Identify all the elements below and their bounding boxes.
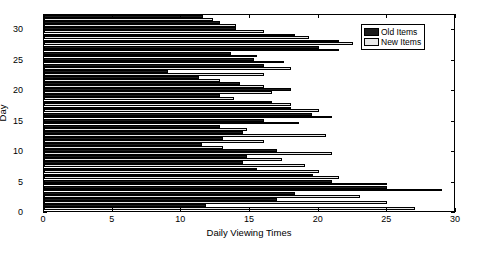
y-tick-20	[451, 90, 455, 91]
x-tick-label-15: 15	[244, 214, 254, 224]
x-tick-label-20: 20	[313, 214, 323, 224]
bar-new-day-32	[44, 18, 213, 21]
bar-new-day-28	[44, 42, 353, 45]
legend-item-old-items: Old Items	[364, 27, 421, 37]
bar-new-day-2	[44, 201, 387, 204]
x-tick-30	[455, 14, 456, 18]
x-tick-label-10: 10	[175, 214, 185, 224]
bar-new-day-11	[44, 146, 223, 149]
legend-swatch-old-items	[364, 28, 379, 36]
x-tick-25	[386, 208, 387, 212]
bar-new-day-16	[44, 116, 332, 119]
legend-label-old-items: Old Items	[381, 28, 417, 37]
x-axis-title: Daily Viewing Times	[207, 227, 292, 238]
y-tick-15	[43, 121, 47, 122]
x-tick-10	[180, 14, 181, 18]
bar-new-day-7	[44, 170, 319, 173]
y-tick-10	[43, 151, 47, 152]
y-axis-title: Day	[0, 105, 8, 122]
legend-item-new-items: New Items	[364, 37, 421, 47]
x-tick-15	[249, 208, 250, 212]
bar-new-day-10	[44, 152, 332, 155]
x-tick-30	[455, 208, 456, 212]
x-tick-label-5: 5	[109, 214, 114, 224]
y-tick-30	[43, 29, 47, 30]
bar-new-day-15	[44, 122, 299, 125]
bar-new-day-27	[44, 49, 339, 52]
bar-new-day-4	[44, 189, 442, 192]
y-tick-label-10: 10	[13, 146, 24, 156]
bar-new-day-19	[44, 97, 234, 100]
bar-new-day-1	[44, 207, 415, 210]
y-tick-5	[451, 182, 455, 183]
y-tick-label-20: 20	[13, 85, 24, 95]
bar-new-day-24	[44, 67, 291, 70]
bar-new-day-17	[44, 109, 319, 112]
y-tick-25	[451, 60, 455, 61]
x-tick-label-0: 0	[40, 214, 45, 224]
y-tick-25	[43, 60, 47, 61]
legend: Old Items New Items	[361, 24, 425, 50]
y-tick-label-5: 5	[18, 177, 24, 187]
legend-swatch-new-items	[364, 38, 379, 46]
x-tick-5	[112, 14, 113, 18]
x-tick-15	[249, 14, 250, 18]
bar-new-day-9	[44, 158, 282, 161]
x-tick-20	[318, 208, 319, 212]
figure: 051015202530 051015202530 Daily Viewing …	[0, 0, 483, 253]
y-tick-5	[43, 182, 47, 183]
y-tick-label-30: 30	[13, 24, 24, 34]
y-tick-0	[451, 212, 455, 213]
x-tick-25	[386, 14, 387, 18]
bar-new-day-6	[44, 176, 339, 179]
bar-new-day-30	[44, 30, 264, 33]
y-tick-0	[43, 212, 47, 213]
y-tick-30	[451, 29, 455, 30]
bar-new-day-20	[44, 91, 272, 94]
bar-new-day-14	[44, 128, 247, 131]
bar-new-day-3	[44, 195, 360, 198]
x-tick-20	[318, 14, 319, 18]
y-tick-20	[43, 90, 47, 91]
bar-new-day-23	[44, 73, 264, 76]
y-tick-label-0: 0	[18, 207, 24, 217]
legend-label-new-items: New Items	[381, 38, 421, 47]
bar-new-day-26	[44, 55, 257, 58]
y-tick-label-15: 15	[13, 116, 24, 126]
y-tick-15	[451, 121, 455, 122]
bar-new-day-25	[44, 61, 284, 64]
bar-new-day-8	[44, 164, 305, 167]
x-tick-label-30: 30	[450, 214, 460, 224]
x-tick-5	[112, 208, 113, 212]
bar-new-day-12	[44, 140, 264, 143]
x-tick-label-25: 25	[381, 214, 391, 224]
bar-new-day-5	[44, 183, 387, 186]
bar-new-day-13	[44, 134, 326, 137]
bar-new-day-18	[44, 103, 291, 106]
bar-new-day-22	[44, 79, 220, 82]
x-tick-10	[180, 208, 181, 212]
x-tick-0	[43, 14, 44, 18]
bar-new-day-29	[44, 36, 309, 39]
y-tick-label-25: 25	[13, 55, 24, 65]
bar-new-day-31	[44, 24, 236, 27]
y-tick-10	[451, 151, 455, 152]
bar-new-day-21	[44, 85, 264, 88]
